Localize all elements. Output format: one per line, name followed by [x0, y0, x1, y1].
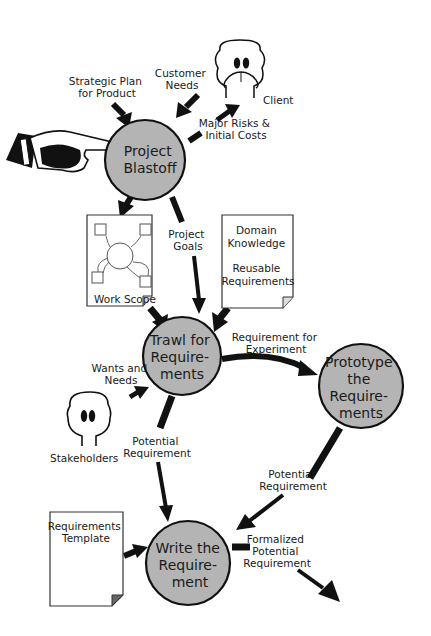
flow-label-req-for-experiment: Requirement for Experiment [232, 331, 321, 355]
flow-label-strategic-plan: Strategic Plan for Product [69, 75, 146, 99]
arrow-template-to-write [124, 544, 148, 558]
process-trawl-for-requirements: Trawl for Require- ments [143, 317, 221, 395]
flow-label-customer-needs: Customer Needs [155, 67, 209, 91]
process-project-blastoff: Project Blastoff [105, 120, 185, 200]
client-label: Client [263, 94, 293, 106]
stakeholders-actor-icon [67, 392, 110, 446]
process-write-requirement: Write the Require- ment [146, 521, 230, 605]
flow-label-major-risks: Major Risks & Initial Costs [199, 117, 274, 141]
flow-label-potential-req-2: Potential Requirement [259, 468, 327, 492]
flow-label-project-goals: Project Goals [168, 228, 207, 252]
arrow-potential-req-trawl [158, 396, 173, 522]
stakeholders-label: Stakeholders [50, 452, 118, 464]
arrow-project-goals [172, 197, 206, 314]
process-prototype-requirements: Prototype the Require- ments [319, 344, 403, 428]
work-scope-label: Work Scope [94, 293, 156, 305]
pointing-hand-icon [6, 131, 115, 172]
flow-label-wants-needs: Wants and Needs [92, 362, 151, 386]
arrow-req-for-experiment [222, 356, 318, 376]
flow-label-formalized: Formalized Potential Requirement [243, 533, 311, 569]
flow-label-potential-req-1: Potential Requirement [123, 435, 191, 459]
arrow-customer-needs [176, 95, 198, 118]
arrow-wants-needs [130, 386, 149, 399]
requirements-process-diagram: Client Stakeholders Work Scope Domain Kn… [0, 0, 431, 636]
client-actor-icon [215, 40, 264, 98]
arrow-domain-to-trawl [212, 308, 228, 332]
svg-text:Project Blastoff: Project Blastoff [123, 143, 176, 176]
